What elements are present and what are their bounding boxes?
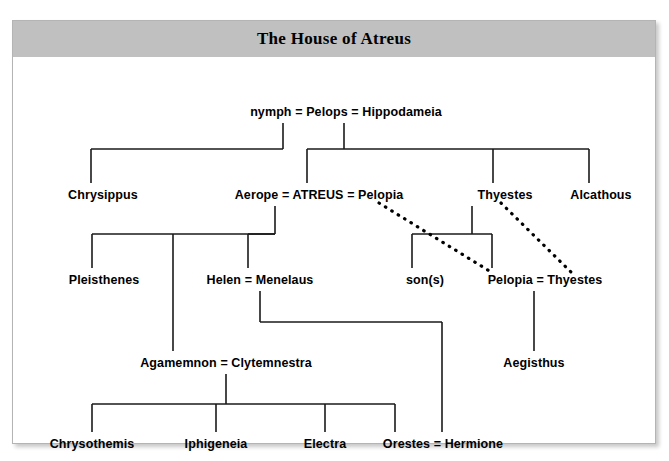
node-thyestes: Thyestes xyxy=(478,188,533,202)
node-pleisthenes: Pleisthenes xyxy=(69,273,140,287)
node-agamemnon-union: Agamemnon = Clytemnestra xyxy=(140,356,312,370)
node-chrysippus: Chrysippus xyxy=(68,188,138,202)
node-chrysothemis: Chrysothemis xyxy=(50,437,135,451)
line-thyestes-identity-dotted xyxy=(501,203,571,272)
tree-canvas: nymph = Pelops = Hippodameia Chrysippus … xyxy=(13,57,655,445)
node-electra: Electra xyxy=(304,437,346,451)
title-bar: The House of Atreus xyxy=(13,21,655,57)
node-aegisthus: Aegisthus xyxy=(503,356,564,370)
diagram-page: The House of Atreus xyxy=(0,0,669,461)
chart-panel: The House of Atreus xyxy=(12,20,656,444)
line-pelopia-identity-dotted xyxy=(379,203,491,272)
node-sons: son(s) xyxy=(406,273,444,287)
node-orestes-union: Orestes = Hermione xyxy=(383,437,503,451)
page-title: The House of Atreus xyxy=(13,21,655,57)
node-pelopia-union: Pelopia = Thyestes xyxy=(488,273,603,287)
node-helen-union: Helen = Menelaus xyxy=(207,273,314,287)
node-alcathous: Alcathous xyxy=(570,188,631,202)
node-iphigeneia: Iphigeneia xyxy=(185,437,248,451)
node-atreus-union: Aerope = ATREUS = Pelopia xyxy=(235,188,404,202)
node-pelops-union: nymph = Pelops = Hippodameia xyxy=(250,105,442,119)
